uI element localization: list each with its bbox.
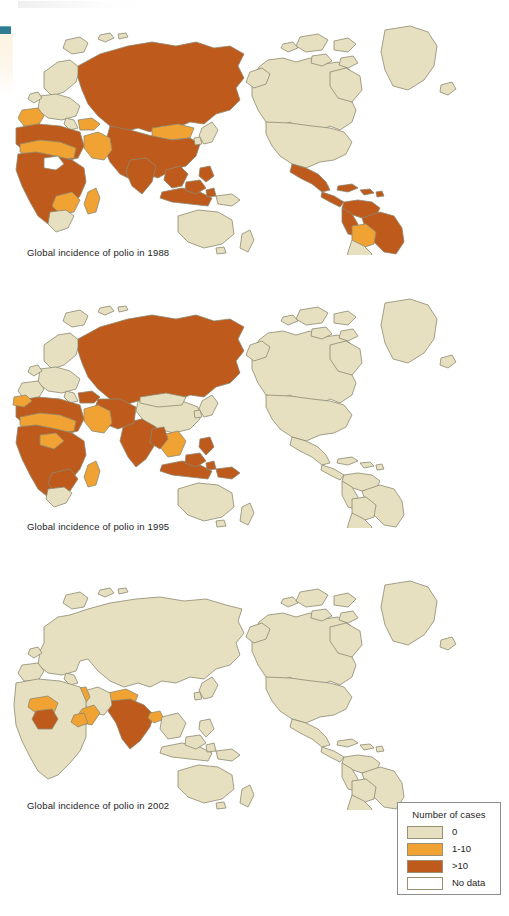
region-iberia [18, 663, 44, 681]
region-greenland [381, 581, 437, 645]
region-arctic-island-4 [339, 329, 358, 341]
region-arctic-island-1 [296, 589, 328, 607]
region-india-pakistan [108, 699, 154, 749]
legend-label-nodata: No data [452, 878, 485, 888]
region-central-america [321, 747, 344, 762]
region-iceland [63, 37, 88, 54]
region-tasmania [216, 247, 226, 254]
region-arctic-island-2 [334, 311, 356, 325]
map-1988 [0, 10, 509, 255]
region-arctic-island-4 [339, 611, 358, 623]
region-ussr [78, 42, 244, 132]
legend-label-zero: 0 [452, 827, 457, 837]
region-philippines [199, 719, 214, 737]
region-svalbard [98, 33, 114, 42]
region-greenland [381, 299, 437, 363]
region-cuba [337, 457, 358, 465]
region-iceland [63, 310, 88, 327]
legend-label-low: 1-10 [452, 844, 471, 854]
region-hispaniola [360, 462, 374, 468]
region-scandinavia [44, 60, 80, 96]
region-tasmania [216, 520, 226, 527]
region-new-zealand [240, 503, 254, 525]
region-philippines [199, 437, 214, 455]
region-south-africa [48, 210, 74, 232]
region-nigeria [32, 709, 58, 729]
region-japan [199, 395, 218, 417]
legend-label-high: >10 [452, 861, 468, 871]
region-franz-josef [118, 33, 128, 39]
region-japan [199, 677, 218, 699]
region-mexico [290, 164, 330, 192]
region-png [216, 749, 240, 761]
world-map-svg-1995 [0, 283, 509, 528]
region-turkey [78, 118, 100, 130]
legend-swatch-high [407, 860, 443, 873]
region-ussr [78, 315, 244, 405]
region-iceland-east [440, 82, 456, 95]
legend-swatch-zero [407, 826, 443, 839]
legend-item-nodata: No data [407, 875, 500, 891]
region-mexico [290, 719, 330, 747]
region-australia [178, 483, 234, 521]
region-sulawesi [206, 743, 216, 752]
legend-item-zero: 0 [407, 824, 500, 840]
region-svalbard [98, 306, 114, 315]
region-iceland-east [440, 637, 456, 650]
legend-item-high: >10 [407, 858, 500, 874]
region-mexico [290, 437, 330, 465]
region-philippines [199, 166, 214, 182]
region-arctic-island-2 [334, 593, 356, 607]
map-legend: Number of cases 0 1-10 >10 No data [397, 802, 501, 895]
region-indochina [164, 166, 188, 188]
region-franz-josef [118, 588, 128, 594]
region-arctic-island-1 [296, 307, 328, 325]
region-arctic-island-4 [339, 56, 358, 68]
region-japan [199, 122, 218, 144]
region-lesser-antilles [376, 746, 384, 752]
region-india [126, 158, 156, 194]
map-1995 [0, 283, 509, 528]
legend-item-low: 1-10 [407, 841, 500, 857]
region-arctic-island-2 [334, 38, 356, 52]
region-cuba [337, 184, 358, 192]
region-arctic-island-5 [281, 42, 298, 52]
region-greenland [381, 26, 437, 90]
region-sulawesi [206, 461, 216, 470]
region-australia [178, 765, 234, 803]
region-cuba [337, 739, 358, 747]
region-hispaniola [360, 744, 374, 750]
map-2002 [0, 565, 509, 810]
region-madagascar [84, 461, 100, 487]
region-franz-josef [118, 306, 128, 312]
region-png [216, 467, 240, 479]
world-map-svg-1988 [0, 10, 509, 255]
region-turkey [78, 391, 100, 403]
region-svalbard [98, 588, 114, 597]
region-new-zealand [240, 230, 254, 252]
figure-page: Global incidence of polio in 1988 [0, 0, 509, 916]
map-caption-1995: Global incidence of polio in 1995 [27, 521, 169, 532]
legend-swatch-low [407, 843, 443, 856]
region-arctic-island-1 [296, 34, 328, 52]
region-iberia [18, 108, 44, 126]
region-scandinavia [44, 333, 80, 369]
legend-title: Number of cases [398, 809, 500, 820]
region-australia [178, 210, 234, 248]
map-caption-1988: Global incidence of polio in 1988 [27, 247, 169, 258]
region-central-america [321, 192, 344, 207]
legend-rows: 0 1-10 >10 No data [398, 824, 500, 891]
region-iceland-east [440, 355, 456, 368]
legend-swatch-nodata [407, 877, 443, 890]
region-central-america [321, 465, 344, 480]
region-indochina [160, 713, 186, 739]
scan-artifact-top [18, 1, 168, 8]
region-lesser-antilles [376, 191, 384, 197]
region-lesser-antilles [376, 464, 384, 470]
region-arctic-island-5 [281, 597, 298, 607]
map-caption-2002: Global incidence of polio in 2002 [27, 800, 169, 811]
region-hispaniola [360, 189, 374, 195]
region-arctic-island-5 [281, 315, 298, 325]
region-iceland [63, 592, 88, 609]
region-new-zealand [240, 785, 254, 807]
